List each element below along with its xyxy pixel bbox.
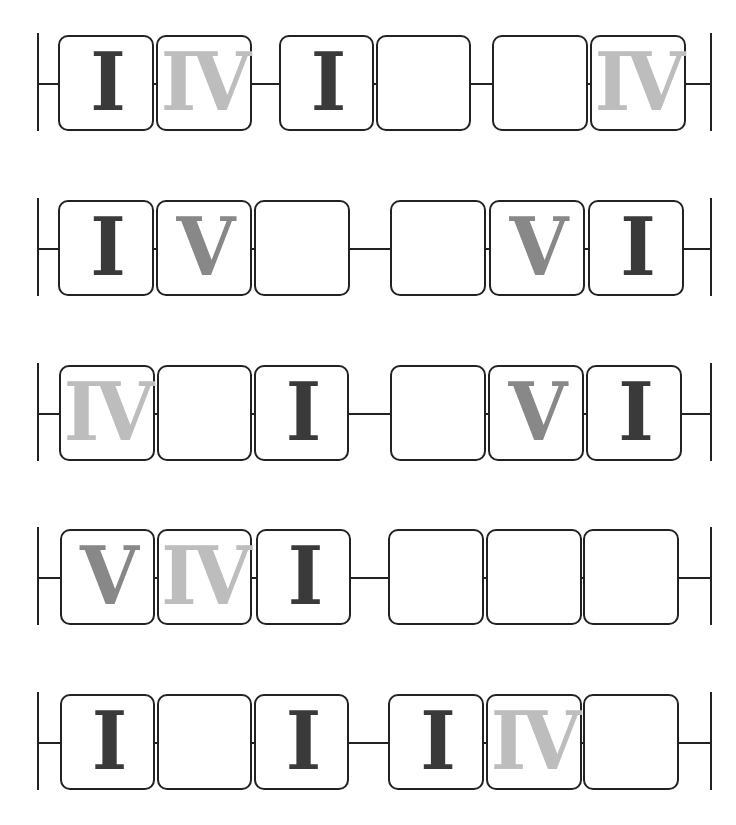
chord-numeral: I bbox=[620, 208, 652, 288]
left-barline bbox=[37, 198, 39, 296]
chord-box: I bbox=[279, 35, 374, 131]
chord-box bbox=[492, 35, 588, 131]
chord-numeral: V bbox=[80, 537, 135, 617]
chord-box bbox=[583, 529, 679, 625]
chord-box: IV bbox=[590, 35, 686, 131]
chord-box: V bbox=[156, 200, 252, 296]
progression-row-3: IVIVI bbox=[0, 365, 736, 465]
chord-box bbox=[583, 694, 679, 790]
right-barline bbox=[710, 198, 712, 296]
chord-box: I bbox=[588, 200, 684, 296]
chord-box: I bbox=[388, 694, 484, 790]
right-barline bbox=[710, 527, 712, 625]
chord-box: I bbox=[58, 200, 154, 296]
chord-numeral: I bbox=[286, 373, 318, 453]
chord-box: I bbox=[58, 35, 154, 131]
right-barline bbox=[710, 363, 712, 461]
chord-numeral: IV bbox=[161, 537, 248, 617]
chord-numeral: I bbox=[90, 43, 122, 123]
chord-numeral: V bbox=[177, 208, 232, 288]
progression-row-5: IIIIV bbox=[0, 694, 736, 794]
right-barline bbox=[710, 692, 712, 790]
chord-box: I bbox=[60, 694, 155, 790]
chord-numeral: IV bbox=[595, 43, 682, 123]
chord-box: I bbox=[254, 694, 349, 790]
progression-row-2: IVVI bbox=[0, 200, 736, 300]
left-barline bbox=[37, 363, 39, 461]
chord-box bbox=[390, 365, 486, 461]
chord-box: IV bbox=[59, 365, 155, 461]
chord-numeral: IV bbox=[161, 43, 248, 123]
chord-box: V bbox=[60, 529, 155, 625]
left-barline bbox=[37, 527, 39, 625]
chord-box bbox=[157, 694, 252, 790]
chord-numeral: I bbox=[618, 373, 650, 453]
chord-box bbox=[390, 200, 486, 296]
chord-box bbox=[376, 35, 471, 131]
chord-box: IV bbox=[157, 529, 252, 625]
chord-numeral: I bbox=[92, 702, 124, 782]
chord-numeral: IV bbox=[491, 702, 578, 782]
progression-row-4: VIVI bbox=[0, 529, 736, 629]
chord-numeral: I bbox=[420, 702, 452, 782]
chord-numeral: I bbox=[286, 702, 318, 782]
chord-box: V bbox=[488, 365, 584, 461]
chord-box bbox=[254, 200, 350, 296]
chord-numeral: I bbox=[311, 43, 343, 123]
chord-numeral: IV bbox=[64, 373, 151, 453]
chord-box: IV bbox=[156, 35, 252, 131]
chord-numeral: I bbox=[288, 537, 320, 617]
left-barline bbox=[37, 692, 39, 790]
chord-box bbox=[388, 529, 484, 625]
chord-box: IV bbox=[486, 694, 582, 790]
chord-numeral: V bbox=[509, 373, 564, 453]
chord-box bbox=[157, 365, 252, 461]
chord-box: I bbox=[586, 365, 682, 461]
chord-box: I bbox=[254, 365, 349, 461]
chord-numeral: I bbox=[90, 208, 122, 288]
left-barline bbox=[37, 33, 39, 131]
right-barline bbox=[710, 33, 712, 131]
chord-box: I bbox=[256, 529, 351, 625]
chord-numeral: V bbox=[510, 208, 565, 288]
chord-box bbox=[486, 529, 582, 625]
progression-row-1: IIVIIV bbox=[0, 35, 736, 135]
chord-box: V bbox=[489, 200, 585, 296]
